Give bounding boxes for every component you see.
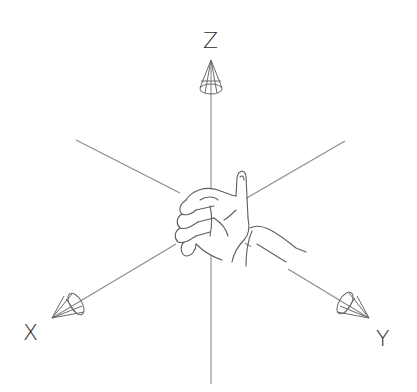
coordinate-axes-diagram: Z X Y	[0, 0, 417, 392]
negative-x-axis-line	[76, 140, 180, 193]
x-axis-cone-icon	[52, 291, 87, 318]
y-axis-label: Y	[376, 326, 389, 351]
negative-y-axis-line	[245, 141, 345, 199]
x-axis-label: X	[23, 320, 38, 345]
z-axis-label: Z	[203, 28, 218, 53]
hand-icon	[175, 171, 306, 272]
y-axis-cone-icon	[334, 290, 369, 318]
